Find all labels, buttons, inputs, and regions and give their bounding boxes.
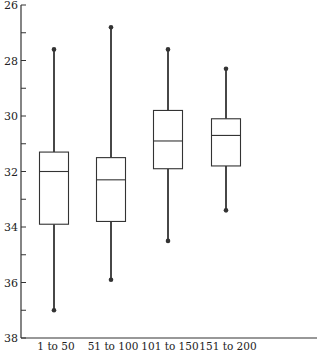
whisker-end-dot	[109, 277, 114, 282]
x-category-label: 51 to 100	[88, 340, 139, 352]
whisker-end-dot	[52, 308, 57, 313]
whisker-end-dot	[52, 47, 57, 52]
y-tick-label: 38	[4, 332, 18, 345]
x-category-label: 151 to 200	[199, 340, 256, 352]
box-plots	[40, 25, 241, 313]
whisker-end-dot	[224, 67, 229, 72]
y-tick-label: 30	[4, 110, 18, 123]
box-plot-chart: 262830323436381 to 5051 to 100101 to 150…	[0, 0, 317, 354]
whisker-end-dot	[166, 47, 171, 52]
x-category-label: 1 to 50	[37, 340, 74, 352]
iqr-box	[212, 119, 241, 166]
y-tick-label: 32	[4, 166, 18, 179]
y-tick-label: 28	[4, 55, 18, 68]
iqr-box	[154, 110, 183, 168]
box-plot-4	[212, 67, 241, 213]
box-plot-3	[154, 47, 183, 243]
y-tick-label: 34	[4, 221, 18, 234]
iqr-box	[40, 152, 69, 224]
whisker-end-dot	[224, 208, 229, 213]
whisker-end-dot	[109, 25, 114, 30]
iqr-box	[97, 158, 126, 222]
whisker-end-dot	[166, 239, 171, 244]
y-tick-label: 36	[4, 277, 18, 290]
box-plot-2	[97, 25, 126, 282]
x-category-label: 101 to 150	[141, 340, 198, 352]
box-plot-1	[40, 47, 69, 312]
y-tick-label: 26	[4, 0, 18, 12]
